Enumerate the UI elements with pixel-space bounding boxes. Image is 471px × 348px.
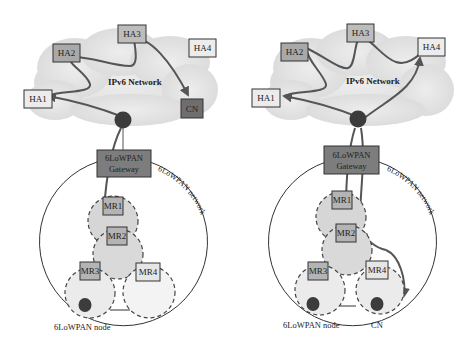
- svg-text:MR3: MR3: [81, 266, 100, 276]
- mobile-router-mr2: MR2: [336, 224, 356, 242]
- mobile-router-mr3: MR3: [308, 262, 328, 280]
- svg-text:6LoWPAN: 6LoWPAN: [333, 150, 371, 160]
- lowpan-gateway: 6LoWPAN Gateway: [97, 150, 151, 177]
- home-agent-ha3: HA3: [118, 25, 146, 43]
- svg-text:HA4: HA4: [423, 42, 441, 52]
- correspondent-node-label: CN: [371, 320, 383, 330]
- mobile-router-mr3: MR3: [80, 262, 100, 280]
- border-router: [350, 111, 367, 128]
- mobile-router-mr4: MR4: [366, 261, 388, 279]
- home-agent-ha4: HA4: [189, 39, 216, 57]
- coverage-zones: [295, 192, 404, 315]
- right-panel: IPv6 Network HA1 HA2 HA3 HA4: [252, 24, 454, 330]
- home-agent-ha1: HA1: [252, 89, 280, 107]
- home-agent-ha4: HA4: [418, 38, 445, 56]
- svg-text:HA2: HA2: [286, 47, 304, 57]
- ipv6-network-label: IPv6 Network: [346, 76, 400, 86]
- svg-text:MR2: MR2: [337, 228, 356, 238]
- mobile-router-mr2: MR2: [107, 227, 127, 245]
- mobile-router-mr4: MR4: [136, 263, 160, 281]
- svg-text:HA1: HA1: [257, 93, 275, 103]
- left-panel: IPv6 Network HA1 HA2 HA3 HA4: [24, 25, 218, 332]
- border-router: [115, 112, 132, 129]
- svg-text:HA3: HA3: [352, 28, 370, 38]
- svg-text:HA4: HA4: [194, 43, 212, 53]
- lowpan-node: [307, 297, 320, 311]
- home-agent-ha1: HA1: [24, 90, 52, 108]
- home-agent-ha2: HA2: [281, 43, 308, 61]
- svg-text:HA1: HA1: [29, 94, 47, 104]
- lowpan-network-label: 6LoWPAN network: [157, 164, 208, 216]
- diagram-stage: IPv6 Network HA1 HA2 HA3 HA4: [0, 0, 471, 348]
- ipv6-network-label: IPv6 Network: [108, 77, 162, 87]
- svg-text:Gateway: Gateway: [336, 161, 367, 171]
- svg-text:HA3: HA3: [123, 29, 141, 39]
- svg-text:MR4: MR4: [368, 265, 387, 275]
- lowpan-node-label: 6LoWPAN node: [54, 322, 111, 332]
- correspondent-node-cn: CN: [181, 99, 203, 118]
- lowpan-node: [79, 298, 92, 312]
- svg-text:MR1: MR1: [333, 195, 352, 205]
- mobile-router-mr1: MR1: [332, 191, 352, 209]
- svg-text:MR3: MR3: [309, 266, 328, 276]
- lowpan-gateway: 6LoWPAN Gateway: [324, 146, 379, 174]
- svg-text:MR4: MR4: [139, 267, 158, 277]
- svg-text:MR1: MR1: [104, 201, 123, 211]
- correspondent-node-cn: [371, 297, 384, 311]
- diagram-svg: IPv6 Network HA1 HA2 HA3 HA4: [0, 0, 471, 348]
- svg-text:Gateway: Gateway: [109, 164, 140, 174]
- mobile-router-mr1: MR1: [103, 197, 123, 215]
- svg-text:6LoWPAN: 6LoWPAN: [105, 153, 143, 163]
- lowpan-node-label: 6LoWPAN node: [283, 320, 340, 330]
- svg-text:CN: CN: [186, 104, 199, 114]
- home-agent-ha3: HA3: [347, 24, 374, 42]
- svg-text:MR2: MR2: [108, 231, 127, 241]
- lowpan-network-label: 6LoWPAN network: [386, 164, 437, 216]
- svg-text:HA2: HA2: [58, 48, 76, 58]
- home-agent-ha2: HA2: [53, 44, 80, 62]
